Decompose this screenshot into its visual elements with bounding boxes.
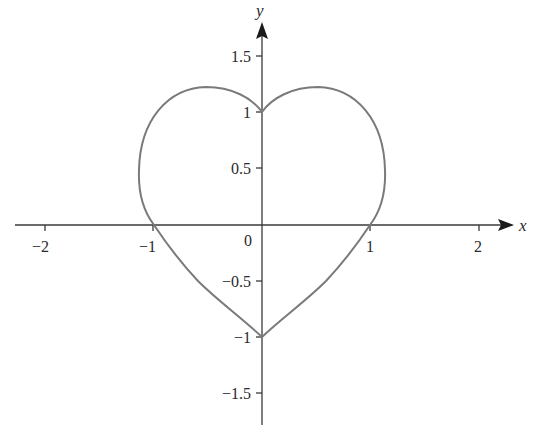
y-tick-label: 1 bbox=[243, 104, 251, 121]
y-axis-label: y bbox=[254, 1, 264, 20]
x-axis-label: x bbox=[518, 216, 527, 235]
y-tick-label: −1 bbox=[234, 329, 251, 346]
y-tick-label: 0.5 bbox=[231, 160, 251, 177]
x-tick-label: 2 bbox=[474, 238, 482, 255]
heart-curve-chart: x y −2 −1 0 1 2 1.5 1 0.5 −0.5 −1 −1.5 bbox=[0, 0, 537, 431]
origin-label: 0 bbox=[244, 232, 252, 249]
x-tick-label: 1 bbox=[366, 238, 374, 255]
y-tick-label: −0.5 bbox=[222, 273, 251, 290]
x-tick-label: −2 bbox=[32, 238, 49, 255]
x-tick-label: −1 bbox=[139, 238, 156, 255]
y-tick-label: −1.5 bbox=[222, 385, 251, 402]
y-tick-label: 1.5 bbox=[231, 48, 251, 65]
